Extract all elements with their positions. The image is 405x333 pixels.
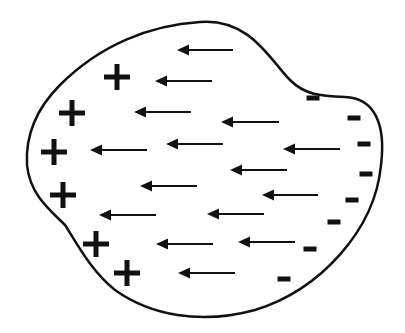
minus-charge-icon <box>346 198 359 203</box>
field-arrow-icon <box>283 144 340 155</box>
minus-charge-icon <box>348 116 361 121</box>
field-arrow-icon <box>99 210 156 221</box>
field-arrow-icon <box>178 268 235 279</box>
minus-charge-icon <box>328 220 341 225</box>
negative-charges <box>278 96 373 282</box>
polarized-body-diagram <box>0 0 405 333</box>
minus-charge-icon <box>360 172 373 177</box>
positive-charges <box>41 64 140 286</box>
minus-charge-icon <box>278 277 291 282</box>
field-arrow-icon <box>140 181 197 192</box>
field-arrow-icon <box>207 209 264 220</box>
field-arrow-icon <box>134 107 191 118</box>
field-arrow-icon <box>90 145 147 156</box>
field-arrow-icon <box>156 239 213 250</box>
minus-charge-icon <box>307 96 320 101</box>
field-arrow-icon <box>177 45 233 56</box>
minus-charge-icon <box>358 142 371 147</box>
plus-charge-icon <box>104 64 130 90</box>
field-arrow-icon <box>262 190 318 201</box>
plus-charge-icon <box>59 100 85 126</box>
field-arrow-icon <box>238 237 295 248</box>
field-arrow-icon <box>221 117 279 128</box>
plus-charge-icon <box>114 260 140 286</box>
plus-charge-icon <box>50 182 76 208</box>
field-arrow-icon <box>155 76 212 87</box>
field-arrow-icon <box>166 139 223 150</box>
plus-charge-icon <box>41 139 67 165</box>
field-arrow-icon <box>230 165 287 176</box>
minus-charge-icon <box>304 247 317 252</box>
plus-charge-icon <box>83 231 109 257</box>
field-arrows <box>90 45 340 279</box>
